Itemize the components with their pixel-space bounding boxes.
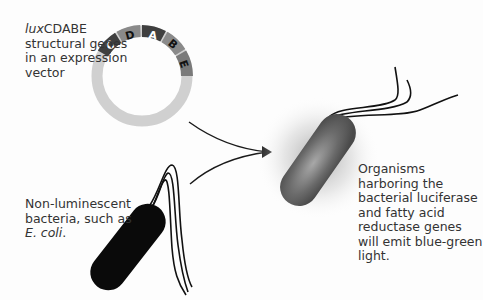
species-name: E. coli [25,225,62,240]
vector-description: structural genes in an expression vector [25,36,127,80]
lux-prefix: lux [25,21,44,36]
period: . [62,225,66,240]
segment-a-label: A [148,28,159,42]
arrow-from-plasmid [189,122,268,152]
organisms-label: Organisms harboring the bacterial lucife… [358,162,483,264]
non-luminescent-text: Non-luminescent bacteria, such as [25,196,132,226]
gene-name: CDABE [44,21,87,36]
vector-label: luxCDABE structural genes in an expressi… [25,22,135,80]
non-luminescent-label: Non-luminescent bacteria, such as E. col… [25,197,135,241]
